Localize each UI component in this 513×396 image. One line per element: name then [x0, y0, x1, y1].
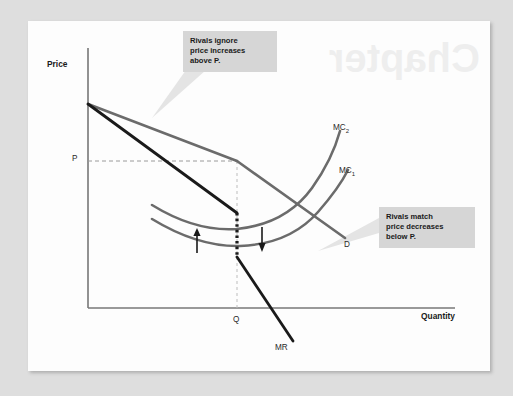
- arrow-down-icon: [258, 227, 265, 252]
- callout-match-line1: Rivals match: [386, 212, 468, 222]
- callout-match-line2: price decreases: [386, 222, 468, 232]
- callout-pointer-ignore: [152, 70, 206, 118]
- callout-match-line3: below P.: [386, 232, 468, 242]
- mc1-text: MC: [339, 166, 352, 175]
- mc2-subscript: 2: [346, 128, 349, 134]
- callout-rivals-match: Rivals match price decreases below P.: [379, 207, 475, 248]
- mr-curve-lower: [237, 257, 293, 341]
- mc1-subscript: 1: [352, 171, 355, 177]
- callout-ignore-line2: price increases: [190, 46, 270, 56]
- y-axis-label: Price: [47, 59, 68, 69]
- mc2-curve-label: MC2: [333, 123, 349, 134]
- callout-ignore-line1: Rivals ignore: [190, 36, 270, 46]
- price-tick-label: P: [72, 154, 77, 163]
- mc2-text: MC: [333, 123, 346, 132]
- demand-curve-upper: [88, 104, 237, 161]
- mc1-curve: [152, 170, 348, 246]
- demand-curve-label: D: [344, 240, 350, 249]
- x-axis-label: Quantity: [421, 311, 455, 321]
- quantity-tick-label: Q: [233, 315, 239, 324]
- mr-curve-label: MR: [275, 343, 288, 352]
- callout-rivals-ignore: Rivals ignore price increases above P.: [183, 31, 277, 72]
- mr-curve-upper: [88, 104, 237, 213]
- mc1-curve-label: MC1: [339, 166, 355, 177]
- callout-ignore-line3: above P.: [190, 56, 270, 66]
